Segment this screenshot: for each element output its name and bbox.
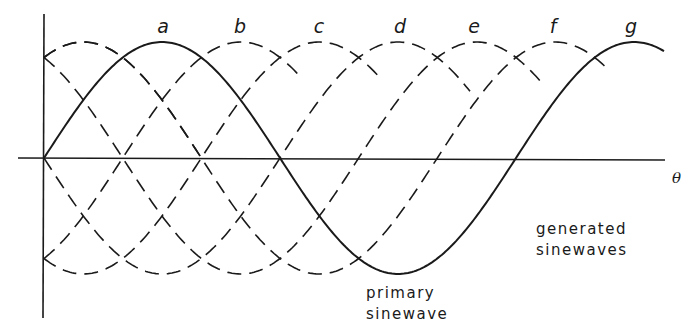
phase-label-b: b xyxy=(234,17,246,36)
primary-sinewave-label: primary sinewave xyxy=(366,283,448,325)
theta-axis xyxy=(18,158,665,160)
phase-label-g: g xyxy=(625,17,637,36)
phase-label-a: a xyxy=(157,17,169,36)
sinewave-diagram xyxy=(0,0,695,334)
primary-label-line1: primary xyxy=(366,283,448,304)
generated-label-line2: sinewaves xyxy=(536,240,628,261)
theta-axis-label: θ xyxy=(672,171,681,186)
phase-label-f: f xyxy=(550,17,557,36)
generated-sinewaves-label: generated sinewaves xyxy=(536,219,628,261)
phase-label-d: d xyxy=(394,17,406,36)
primary-label-line2: sinewave xyxy=(366,304,448,325)
phase-label-e: e xyxy=(468,17,480,36)
generated-label-line1: generated xyxy=(536,219,628,240)
phase-label-c: c xyxy=(314,17,324,36)
vertical-axis xyxy=(43,14,44,318)
